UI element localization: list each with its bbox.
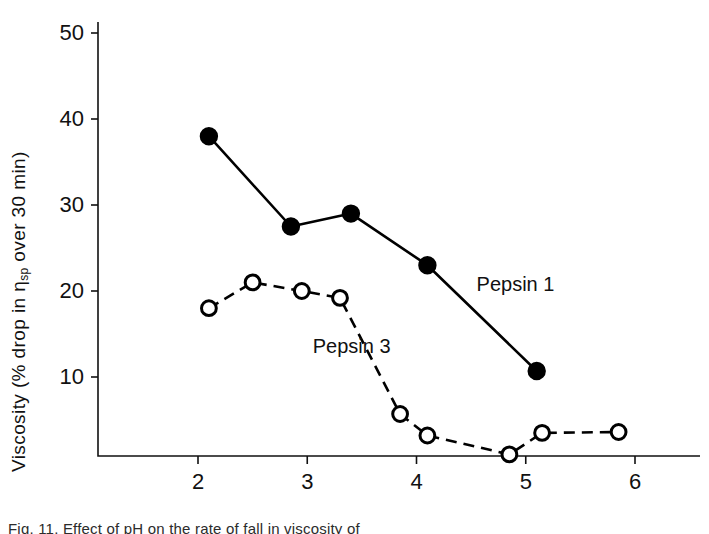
axes xyxy=(98,22,700,456)
y-axis-title: Viscosity (% drop in ηsp over 30 min) xyxy=(8,151,31,472)
data-point xyxy=(529,363,545,379)
data-point xyxy=(393,407,408,422)
eta-symbol: η xyxy=(8,281,29,292)
x-tick-label-5: 5 xyxy=(520,469,532,494)
y-tick-label-30: 30 xyxy=(60,192,84,217)
data-point xyxy=(343,205,359,221)
data-point xyxy=(535,426,550,441)
series-line xyxy=(209,282,619,454)
annotation-pepsin-3: Pepsin 3 xyxy=(313,335,391,357)
x-tick-label-3: 3 xyxy=(301,469,313,494)
data-point xyxy=(611,425,626,440)
series-pepsin-3 xyxy=(202,275,626,462)
figure-caption: Fig. 11. Effect of pH on the rate of fal… xyxy=(0,520,709,534)
y-axis-ticks: 1020304050 xyxy=(60,20,98,389)
figure-caption-text: Fig. 11. Effect of pH on the rate of fal… xyxy=(8,520,709,534)
data-point xyxy=(201,128,217,144)
y-tick-label-10: 10 xyxy=(60,364,84,389)
y-tick-label-50: 50 xyxy=(60,20,84,45)
data-point xyxy=(333,291,348,306)
figure-viscosity-vs-ph: Viscosity (% drop in ηsp over 30 min) 10… xyxy=(0,0,709,534)
data-point xyxy=(283,218,299,234)
annotation-pepsin-1: Pepsin 1 xyxy=(477,273,555,295)
data-point xyxy=(245,275,260,290)
x-tick-label-6: 6 xyxy=(629,469,641,494)
eta-subscript-sp: sp xyxy=(17,267,31,280)
data-series-group xyxy=(201,128,626,462)
data-point xyxy=(419,257,435,273)
y-tick-label-40: 40 xyxy=(60,106,84,131)
x-tick-label-2: 2 xyxy=(192,469,204,494)
data-point xyxy=(202,301,217,316)
x-tick-label-4: 4 xyxy=(410,469,422,494)
x-axis-ticks: 23456 xyxy=(192,456,641,494)
data-point xyxy=(294,284,309,299)
data-point xyxy=(502,447,517,462)
y-tick-label-20: 20 xyxy=(60,278,84,303)
series-annotations: Pepsin 1Pepsin 3 xyxy=(313,273,555,357)
y-axis-title-prefix: Viscosity (% drop in xyxy=(8,292,29,472)
y-axis-title-suffix: over 30 min) xyxy=(8,151,29,267)
chart-canvas: 1020304050 23456 Pepsin 1Pepsin 3 xyxy=(0,0,709,520)
data-point xyxy=(420,428,435,443)
